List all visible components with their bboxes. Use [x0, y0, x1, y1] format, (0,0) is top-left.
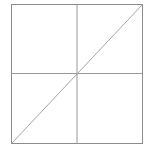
figure-canvas: [0, 0, 153, 155]
figure-svg: [0, 0, 153, 155]
